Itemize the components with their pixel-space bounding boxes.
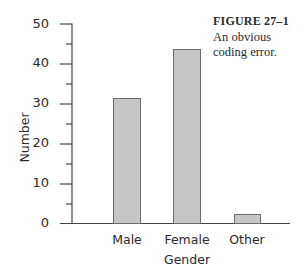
xtick-other: Other — [217, 232, 277, 247]
bar-male — [113, 98, 141, 224]
figure-label: FIGURE 27–1 — [213, 14, 289, 29]
x-axis-label: Gender — [157, 252, 217, 267]
caption-line-1: An obvious — [213, 30, 271, 45]
caption-line-2: coding error. — [213, 45, 277, 60]
bar-other — [234, 214, 261, 224]
bar-female — [173, 49, 201, 224]
xtick-male: Male — [97, 232, 157, 247]
xtick-female: Female — [157, 232, 217, 247]
